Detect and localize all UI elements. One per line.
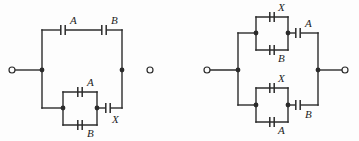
terminal-right-terminal bbox=[342, 67, 348, 73]
capacitor-X-bottom-parallel: X bbox=[270, 72, 286, 93]
junction-bottom-parallel-left-node bbox=[254, 103, 259, 108]
circuit-figure: ABABXXBAXAB bbox=[0, 0, 359, 141]
junction-left-junction bbox=[40, 68, 45, 73]
left-capacitor-network: ABABX bbox=[9, 14, 153, 139]
junction-parallel-left-node bbox=[61, 106, 66, 111]
capacitor-label: A bbox=[86, 76, 94, 88]
junction-bottom-parallel-right-node bbox=[286, 103, 291, 108]
junction-left-junction bbox=[236, 68, 241, 73]
capacitor-label: A bbox=[69, 14, 77, 26]
capacitor-A-bottom-parallel: A bbox=[270, 117, 285, 136]
capacitor-B-top: B bbox=[102, 14, 118, 35]
capacitor-label: B bbox=[278, 52, 285, 64]
capacitor-B-top-parallel: B bbox=[270, 45, 285, 64]
junction-top-parallel-right-node bbox=[286, 31, 291, 36]
right-capacitor-network: XBAXAB bbox=[204, 1, 348, 136]
junction-top-parallel-left-node bbox=[254, 31, 259, 36]
junction-right-junction bbox=[120, 68, 125, 73]
circuits-layer: ABABXXBAXAB bbox=[9, 1, 348, 139]
capacitor-B-parallel: B bbox=[78, 120, 94, 139]
capacitor-A-top-series: A bbox=[296, 17, 312, 38]
capacitor-label: X bbox=[111, 113, 120, 125]
capacitor-label: B bbox=[305, 108, 312, 120]
capacitor-X-top-parallel: X bbox=[270, 1, 286, 22]
circuit-diagram-canvas: ABABXXBAXAB bbox=[0, 0, 359, 141]
capacitor-label: B bbox=[87, 127, 94, 139]
capacitor-A-parallel: A bbox=[78, 76, 94, 97]
capacitor-label: X bbox=[277, 1, 286, 13]
terminal-right-terminal bbox=[147, 67, 153, 73]
junction-right-junction bbox=[316, 68, 321, 73]
capacitor-label: B bbox=[111, 14, 118, 26]
capacitor-label: X bbox=[277, 72, 286, 84]
terminal-left-terminal bbox=[204, 67, 210, 73]
capacitor-label: A bbox=[304, 17, 312, 29]
capacitor-label: A bbox=[277, 124, 285, 136]
junction-parallel-right-node bbox=[95, 106, 100, 111]
capacitor-A-top: A bbox=[61, 14, 77, 35]
terminal-left-terminal bbox=[9, 67, 15, 73]
capacitor-B-bottom-series: B bbox=[296, 100, 312, 120]
capacitor-X-series: X bbox=[106, 103, 120, 125]
